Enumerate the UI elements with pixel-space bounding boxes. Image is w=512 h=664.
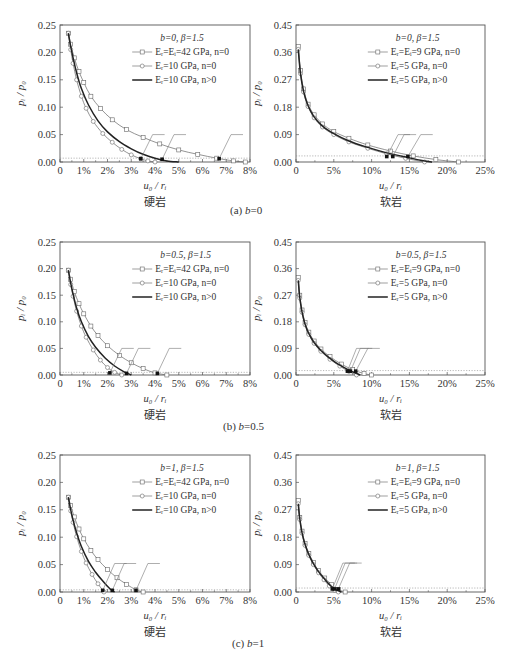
x-tick-label: 4% xyxy=(148,378,162,389)
caption-value: =1 xyxy=(252,637,264,649)
y-tick-label: 0.20 xyxy=(38,477,56,488)
rock-type-label: 软岩 xyxy=(380,625,402,638)
x-tick-label: 8% xyxy=(243,595,257,606)
square-marker xyxy=(110,118,114,122)
y-tick-label: 0.18 xyxy=(274,316,292,327)
circle-marker xyxy=(129,153,133,157)
x-tick-label: 0 xyxy=(293,378,298,389)
rock-type-label: 硬岩 xyxy=(144,408,166,421)
circle-marker xyxy=(84,561,88,565)
annotation-leader xyxy=(332,563,343,589)
x-tick-label: 1% xyxy=(77,378,91,389)
legend-entry: Eᵣ=10 GPa, n=0 xyxy=(155,61,216,71)
legend-entry: Eᵣ=5 GPa, n=0 xyxy=(391,278,448,288)
square-marker xyxy=(96,334,100,338)
circle-marker xyxy=(110,140,114,144)
square-marker xyxy=(165,373,169,377)
plot-frame xyxy=(60,242,250,375)
x-tick-label: 2% xyxy=(101,378,115,389)
caption-prefix: (b) xyxy=(223,420,239,432)
y-tick-label: 0.18 xyxy=(274,102,292,113)
annotation-leader xyxy=(112,564,124,591)
critical-point xyxy=(337,587,341,591)
x-tick-label: 0 xyxy=(57,595,62,606)
figure-canvas: 01%2%3%4%5%6%7%8%0.000.050.100.150.200.2… xyxy=(0,0,512,664)
critical-point xyxy=(391,155,395,159)
y-tick-label: 0.25 xyxy=(38,237,56,248)
x-tick-label: 4% xyxy=(148,165,162,176)
y-tick-label: 0.36 xyxy=(274,477,292,488)
legend-entry: Eᵣ=5 GPa, n>0 xyxy=(391,292,448,302)
legend-entry: Eᵣ=10 GPa, n>0 xyxy=(155,292,216,302)
x-tick-label: 3% xyxy=(124,165,138,176)
legend-entry: Eᵣ=5 GPa, n>0 xyxy=(391,505,448,515)
x-tick-label: 7% xyxy=(219,378,233,389)
y-tick-label: 0.25 xyxy=(38,20,56,31)
x-tick-label: 25% xyxy=(475,595,495,606)
x-tick-label: 20% xyxy=(438,165,458,176)
x-tick-label: 5% xyxy=(327,165,341,176)
x-tick-label: 25% xyxy=(475,165,495,176)
legend-entry: Eᵣ=Eᵢ=9 GPa, n=0 xyxy=(391,47,460,57)
x-axis-label: u₀ / rᵢ xyxy=(144,393,167,404)
circle-marker xyxy=(120,373,124,377)
square-marker xyxy=(370,373,374,377)
circle-marker xyxy=(91,119,95,123)
legend-entry: Eᵣ=Eᵢ=9 GPa, n=0 xyxy=(391,477,460,487)
x-tick-label: 0 xyxy=(293,165,298,176)
annotation-leader xyxy=(157,348,169,373)
x-tick-label: 15% xyxy=(400,595,420,606)
legend-square-marker xyxy=(376,50,380,54)
square-marker xyxy=(243,160,247,164)
plot-frame xyxy=(60,455,250,592)
y-tick-label: 0.27 xyxy=(274,290,292,301)
x-tick-label: 8% xyxy=(243,165,257,176)
y-axis-label: pᵢ / p₀ xyxy=(250,511,262,537)
y-tick-label: 0.00 xyxy=(274,370,292,381)
x-tick-label: 0 xyxy=(57,165,62,176)
square-marker xyxy=(98,106,102,110)
annotation-leader xyxy=(162,135,174,160)
circle-marker xyxy=(98,358,102,362)
critical-point xyxy=(160,157,164,161)
caption-prefix: (a) xyxy=(230,204,245,216)
chart-panel-b-hard: 01%2%3%4%5%6%7%8%0.000.050.100.150.200.2… xyxy=(14,237,257,422)
legend-circle-marker xyxy=(376,494,380,498)
plot-frame xyxy=(60,25,250,162)
square-marker xyxy=(362,372,366,376)
x-tick-label: 10% xyxy=(362,378,382,389)
row-caption-a: (a) b=0 xyxy=(230,204,262,216)
square-marker xyxy=(231,159,235,163)
x-tick-label: 7% xyxy=(219,165,233,176)
legend-entry: Eᵣ=Eᵢ=9 GPa, n=0 xyxy=(391,264,460,274)
critical-point xyxy=(156,372,160,376)
legend-entry: Eᵣ=10 GPa, n=0 xyxy=(155,491,216,501)
y-tick-label: 0.05 xyxy=(38,343,56,354)
legend-entry: Eᵣ=5 GPa, n=0 xyxy=(391,491,448,501)
legend-title: b=0.5, β=1.5 xyxy=(160,250,211,260)
critical-point xyxy=(139,157,143,161)
legend-title: b=0, β=1.5 xyxy=(160,33,204,43)
y-tick-label: 0.15 xyxy=(38,74,56,85)
square-marker xyxy=(77,302,81,306)
series-line-2 xyxy=(68,497,104,592)
x-tick-label: 1% xyxy=(77,595,91,606)
x-tick-label: 5% xyxy=(327,595,341,606)
y-tick-label: 0.05 xyxy=(38,559,56,570)
y-tick-label: 0.45 xyxy=(274,20,292,31)
chart-panel-c-soft: 05%10%15%20%25%0.000.090.180.270.360.45u… xyxy=(250,450,495,639)
square-marker xyxy=(141,590,145,594)
plot-frame xyxy=(296,25,485,162)
critical-point xyxy=(385,155,389,159)
circle-marker xyxy=(120,147,124,151)
chart-panel-a-hard: 01%2%3%4%5%6%7%8%0.000.050.100.150.200.2… xyxy=(14,20,257,209)
circle-marker xyxy=(106,366,110,370)
square-marker xyxy=(457,160,461,164)
circle-marker xyxy=(84,106,88,110)
square-marker xyxy=(141,367,145,371)
critical-point xyxy=(125,372,129,376)
y-tick-label: 0.45 xyxy=(274,450,292,461)
rock-type-label: 硬岩 xyxy=(144,625,166,638)
circle-marker xyxy=(90,572,94,576)
y-tick-label: 0.15 xyxy=(38,290,56,301)
